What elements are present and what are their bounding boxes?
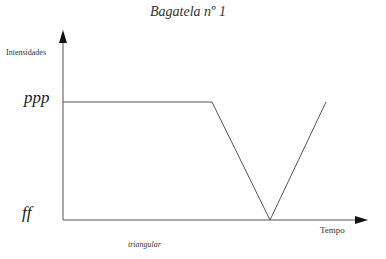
y-axis <box>59 30 67 220</box>
intensity-curve <box>63 102 326 220</box>
x-axis <box>63 216 368 224</box>
intensity-diagram <box>0 0 386 259</box>
y-axis-arrow-icon <box>59 30 67 43</box>
x-axis-arrow-icon <box>355 216 368 224</box>
